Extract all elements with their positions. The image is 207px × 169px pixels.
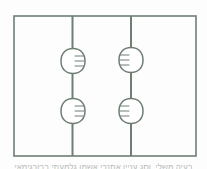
lamp-bottom-right (119, 99, 143, 124)
lamp-bottom-left (61, 99, 85, 124)
figure-background (0, 0, 207, 169)
circuit-diagram-figure: בעיה משלי, וסג עניין אתנכי אשמן גלמעתי ב… (0, 0, 207, 169)
circuit-schematic-canvas (0, 0, 207, 169)
figure-caption: בעיה משלי, וסג עניין אתנכי אשמן גלמעתי ב… (0, 157, 207, 169)
lamp-top-left (61, 49, 85, 74)
figure-caption-text: בעיה משלי, וסג עניין אתנכי אשמן גלמעתי ב… (14, 163, 192, 169)
lamp-top-right (119, 48, 143, 73)
